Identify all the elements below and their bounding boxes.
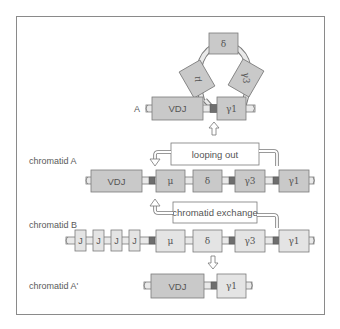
arrow-up-icon (209, 122, 219, 135)
switch-region (149, 177, 155, 184)
chromatid-exchange-label: chromatid exchange (172, 207, 258, 218)
svg-text:γ3: γ3 (244, 236, 255, 246)
svg-text:γ1: γ1 (226, 281, 237, 291)
switch-region (229, 237, 235, 244)
switch-region (211, 282, 217, 289)
chromatid-a-label: chromatid A (29, 156, 77, 166)
chromatid-exchange-annotation: chromatid exchange (150, 199, 277, 228)
svg-text:VDJ: VDJ (169, 281, 187, 292)
gene-gamma3-loop-label: γ3 (241, 72, 251, 83)
chromatid-a-prime: VDJ γ1 (144, 274, 253, 298)
gene-vdj-loop-label: VDJ (169, 103, 187, 114)
svg-text:δ: δ (205, 236, 210, 246)
svg-text:J: J (132, 236, 137, 246)
svg-text:γ3: γ3 (244, 176, 255, 186)
svg-text:J: J (78, 236, 83, 246)
chromatid-a: VDJ μ δ γ3 γ1 (86, 170, 315, 192)
class-switch-diagram: δ μ γ3 VDJ γ1 A looping out (0, 0, 340, 329)
looping-out-annotation: looping out (150, 143, 277, 166)
svg-text:γ1: γ1 (288, 236, 299, 246)
gene-delta-loop-label: δ (221, 39, 226, 49)
loop-structure: δ μ γ3 VDJ γ1 A (134, 33, 264, 120)
arrow-down-icon (150, 159, 160, 166)
arrow-up-icon (150, 199, 160, 206)
chromatid-b: J J J J μ δ γ3 γ1 (66, 230, 315, 252)
switch-region (210, 105, 217, 113)
chromatid-b-label: chromatid B (29, 220, 77, 230)
svg-text:J: J (96, 236, 101, 246)
switch-region (149, 237, 155, 244)
arrow-down-icon (208, 256, 218, 269)
gene-mu-loop-label: μ (192, 76, 202, 82)
svg-text:μ: μ (168, 176, 174, 186)
svg-text:γ1: γ1 (288, 176, 299, 186)
svg-text:J: J (114, 236, 119, 246)
switch-region (229, 177, 235, 184)
switch-region (273, 177, 279, 184)
switch-region (273, 237, 279, 244)
svg-text:μ: μ (168, 236, 174, 246)
svg-text:VDJ: VDJ (108, 176, 126, 187)
looping-out-label: looping out (192, 149, 239, 160)
chromatid-a-prime-label: chromatid A' (29, 281, 79, 291)
label-a: A (134, 104, 140, 114)
gene-gamma1-loop-label: γ1 (226, 104, 237, 114)
svg-text:δ: δ (205, 176, 210, 186)
